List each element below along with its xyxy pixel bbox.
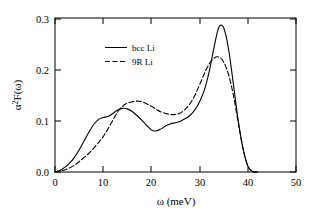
y-tick-label-0.2: 0.2 — [36, 65, 49, 76]
figure-root: 0 10 20 30 40 50 0.0 0.1 0.2 0.3 ω (meV)… — [0, 0, 316, 218]
x-tick-label-10: 10 — [98, 177, 109, 188]
y-tick-label-0.3: 0.3 — [36, 14, 49, 25]
x-axis-title: ω (meV) — [157, 195, 196, 208]
series-line-bcc-li — [55, 25, 257, 172]
svg-text:α2F(ω): α2F(ω) — [11, 79, 25, 110]
x-tick-label-20: 20 — [146, 177, 157, 188]
y-tick-label-0: 0.0 — [36, 167, 49, 178]
legend-label-bcc-li: bcc Li — [132, 43, 155, 53]
x-axis-ticks — [55, 18, 296, 172]
y-axis-title-rest: F(ω) — [11, 79, 24, 100]
y-axis-title: α2F(ω) — [11, 79, 25, 110]
series-line-9r-li — [55, 57, 257, 172]
x-tick-label-0: 0 — [52, 177, 57, 188]
x-tick-label-30: 30 — [195, 177, 206, 188]
x-tick-label-40: 40 — [243, 177, 254, 188]
legend-label-9r-li: 9R Li — [132, 57, 153, 67]
y-axis-ticks — [55, 19, 296, 172]
x-tick-label-50: 50 — [291, 177, 302, 188]
y-tick-label-0.1: 0.1 — [36, 116, 49, 127]
series-group — [55, 25, 257, 172]
alpha2f-spectrum-chart: 0 10 20 30 40 50 0.0 0.1 0.2 0.3 ω (meV)… — [0, 0, 316, 218]
plot-frame — [55, 18, 296, 172]
legend: bcc Li 9R Li — [105, 43, 155, 67]
